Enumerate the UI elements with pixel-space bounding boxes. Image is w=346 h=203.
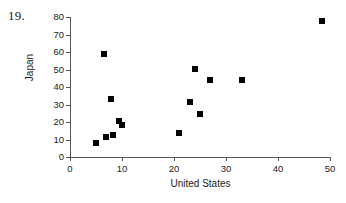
y-tick-label: 80 xyxy=(42,11,64,22)
data-point xyxy=(239,77,245,83)
data-point xyxy=(93,140,99,146)
data-point xyxy=(207,77,213,83)
data-point xyxy=(187,99,193,105)
y-tick-label: 10 xyxy=(42,134,64,145)
y-tick-label: 50 xyxy=(42,64,64,75)
x-tick xyxy=(122,157,123,161)
data-point xyxy=(119,122,125,128)
y-tick-label: 70 xyxy=(42,29,64,40)
data-point xyxy=(176,130,182,136)
problem-number: 19. xyxy=(8,8,25,24)
data-point xyxy=(103,134,109,140)
x-axis-line xyxy=(70,157,331,158)
y-tick-label: 20 xyxy=(42,116,64,127)
x-tick-label: 40 xyxy=(266,163,290,174)
x-tick xyxy=(278,157,279,161)
x-tick-label: 50 xyxy=(318,163,342,174)
x-tick-label: 0 xyxy=(58,163,82,174)
data-point xyxy=(101,51,107,57)
x-tick-label: 20 xyxy=(162,163,186,174)
x-tick xyxy=(330,157,331,161)
y-tick-label: 40 xyxy=(42,81,64,92)
data-point xyxy=(192,66,198,72)
data-point xyxy=(319,18,325,24)
x-tick xyxy=(70,157,71,161)
y-tick-label: 60 xyxy=(42,46,64,57)
data-point xyxy=(197,111,203,117)
x-tick xyxy=(174,157,175,161)
data-point xyxy=(110,132,116,138)
x-tick-label: 10 xyxy=(110,163,134,174)
y-tick-label: 0 xyxy=(42,151,64,162)
x-tick xyxy=(226,157,227,161)
x-axis-title: United States xyxy=(70,178,331,189)
y-axis-title: Japan xyxy=(24,38,35,98)
y-tick-label: 30 xyxy=(42,99,64,110)
x-tick-label: 30 xyxy=(214,163,238,174)
scatter-plot-figure: 19. 01020304050607080 01020304050 Japan … xyxy=(0,0,346,203)
data-point xyxy=(108,96,114,102)
